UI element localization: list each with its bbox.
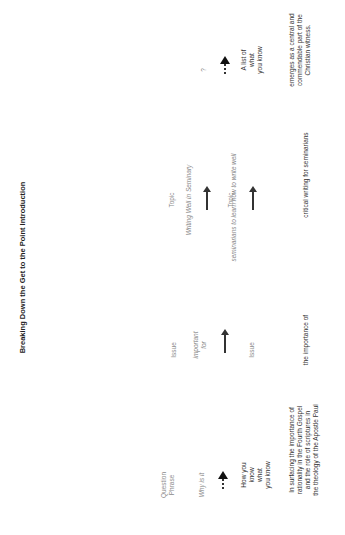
topic-example: critical writing for seminarians — [302, 105, 310, 245]
list-result: A list of what you know — [240, 35, 264, 85]
diagram-page: Breaking Down the Get to the Point Intro… — [0, 0, 345, 535]
topic-prompt: Writing Well in Seminary — [185, 155, 193, 245]
issue-result: Issue — [248, 330, 256, 370]
list-dotted-arrow — [224, 64, 226, 74]
topic-arrow-1 — [206, 190, 208, 210]
question-example: In surfacing the importance of rationali… — [288, 385, 320, 515]
topic-prompt-2: seminarians to learn how to write well — [230, 120, 238, 295]
topic-arrow-2 — [252, 190, 254, 210]
question-phrase-header: Question Phrase — [160, 460, 176, 510]
issue-arrow — [224, 333, 226, 353]
diagram-title: Breaking Down the Get to the Point Intro… — [18, 0, 27, 535]
issue-prompt: important for — [192, 325, 208, 365]
list-arrowhead-icon — [220, 56, 230, 64]
list-prompt: ? — [200, 60, 208, 80]
question-arrowhead-icon — [218, 471, 228, 479]
question-result: How you know what you know — [240, 450, 272, 500]
issue-header: Issue — [170, 330, 178, 370]
topic-header: Topic — [168, 180, 176, 220]
question-prompt: Why is it — [198, 460, 206, 510]
list-example: emerges as a central and commendable par… — [288, 0, 312, 105]
question-dotted-arrow — [222, 479, 224, 489]
issue-example: the importance of — [302, 295, 310, 385]
